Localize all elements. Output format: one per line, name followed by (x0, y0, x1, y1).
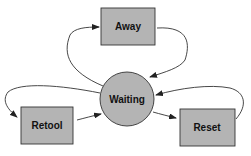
node-away: Away (101, 8, 155, 45)
edge-away-to-waiting (150, 28, 187, 77)
node-retool-label: Retool (31, 120, 62, 131)
edge-waiting-to-reset (153, 112, 176, 118)
node-reset-label: Reset (193, 122, 221, 133)
node-retool: Retool (21, 107, 73, 144)
edge-retool-to-waiting (77, 114, 101, 120)
edge-waiting-to-away (67, 27, 103, 86)
node-waiting: Waiting (100, 72, 154, 126)
node-away-label: Away (115, 21, 141, 32)
node-reset: Reset (180, 109, 235, 146)
node-waiting-label: Waiting (109, 94, 145, 105)
state-diagram: Away Waiting Retool Reset (0, 0, 251, 156)
